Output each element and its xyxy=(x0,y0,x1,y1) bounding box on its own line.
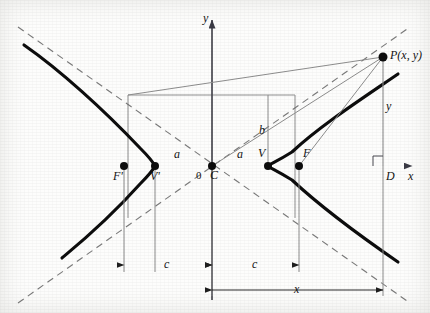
axis-label-x: x xyxy=(408,170,413,182)
origin-label: 0 xyxy=(196,170,202,181)
segment-label-a-right: a xyxy=(237,148,243,160)
segment-label-c-right: c xyxy=(252,258,257,270)
dot-vertex-right xyxy=(264,162,272,170)
center-label-c: C xyxy=(210,169,218,181)
vertex-left-label: V' xyxy=(150,170,160,182)
line-rect-corner-to-p xyxy=(128,57,383,95)
dot-focus-right xyxy=(295,162,303,170)
diagram-canvas xyxy=(0,0,430,313)
segment-label-y: y xyxy=(386,100,391,112)
right-angle-marker xyxy=(373,156,383,166)
segment-label-c-left: c xyxy=(164,258,169,270)
right-branch xyxy=(268,74,398,262)
hyperbola-figure: y x 0 C F' V' V F P(x, y) D a a b c c x … xyxy=(0,0,430,313)
focus-right-label: F xyxy=(303,147,310,159)
hyperbola-curves xyxy=(24,45,398,262)
foot-d-label: D xyxy=(386,170,395,182)
dimension-guides xyxy=(124,166,299,296)
segment-label-a-left: a xyxy=(174,148,180,160)
dot-point-p xyxy=(379,53,388,62)
line-f-to-p xyxy=(299,57,383,166)
focus-left-label: F' xyxy=(113,170,123,182)
segment-label-x: x xyxy=(294,283,299,295)
segment-label-b: b xyxy=(259,124,265,136)
axis-label-y: y xyxy=(203,12,208,24)
point-markers xyxy=(120,53,388,171)
vertex-right-label: V xyxy=(258,147,265,159)
point-p-label: P(x, y) xyxy=(390,49,422,61)
